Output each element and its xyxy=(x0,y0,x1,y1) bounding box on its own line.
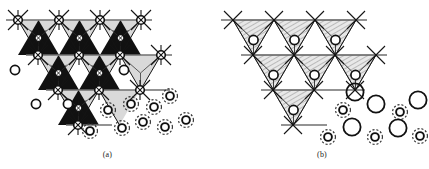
figure-container: (a) (b) xyxy=(0,0,429,169)
panel-a-caption: (a) xyxy=(0,150,215,159)
panel-b-caption: (b) xyxy=(215,150,429,159)
lattice-figure xyxy=(0,0,429,169)
